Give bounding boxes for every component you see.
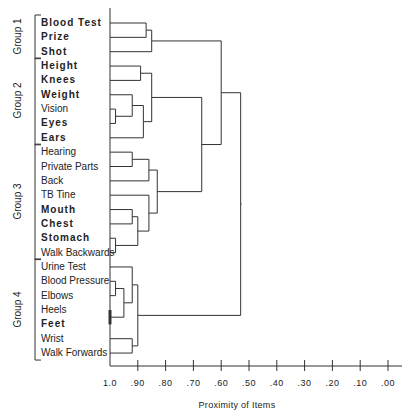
merge-link [141,73,152,121]
merge-link [110,95,132,117]
merge-link [132,285,138,346]
x-tick-label: .60 [214,378,228,388]
group-label: Group 4 [12,279,23,339]
x-tick-label: .00 [381,378,395,388]
merge-link [152,41,222,145]
merge-link [138,93,241,316]
x-tick-label: .40 [270,378,284,388]
leaf-label: Back [41,175,63,187]
leaf-label: Heels [41,304,67,316]
leaf-label: Knees [41,74,76,86]
merge-link [110,23,146,37]
x-tick-label: .30 [298,378,312,388]
leaf-label: Blood Test [41,17,102,29]
merge-link [110,210,132,224]
x-tick-label: .80 [159,378,173,388]
x-axis-title: Proximity of Items [0,400,414,410]
leaf-label: Walk Forwards [41,347,107,359]
merge-link [110,30,152,52]
leaf-label: Mouth [41,204,76,216]
merge-link [149,170,157,213]
leaf-label: Hearing [41,146,76,158]
x-tick-label: .90 [131,378,145,388]
leaf-label: Urine Test [41,261,86,273]
merge-link [110,281,116,295]
merge-link [110,109,116,123]
x-axis [110,360,402,371]
leaf-label: Weight [41,89,80,101]
leaf-label: Shot [41,46,67,58]
dendrogram-links [110,8,242,366]
leaf-label: Wrist [41,333,64,345]
leaf-label: Stomach [41,232,90,244]
leaf-label: Ears [41,132,67,144]
group-label: Group 2 [12,71,23,131]
merge-link [110,195,149,231]
x-tick-label: 1.0 [103,378,117,388]
merge-link [116,217,138,246]
leaf-label: Chest [41,218,74,230]
merge-link [110,339,132,353]
leaf-label: Height [41,60,78,72]
leaf-label: Blood Pressure [41,275,109,287]
x-tick-label: .10 [353,378,367,388]
merge-link [110,106,143,138]
leaf-label: Vision [41,103,68,115]
merge-link [110,159,149,181]
merge-link [110,288,124,317]
merge-link [110,66,141,80]
merge-link [152,97,202,191]
merge-link [110,267,132,303]
group-label: Group 1 [12,6,23,66]
leaf-label: Private Parts [41,161,98,173]
x-tick-label: .50 [242,378,256,388]
leaf-label: Eyes [41,117,68,129]
x-tick-label: .20 [325,378,339,388]
leaf-label: TB Tine [41,189,75,201]
leaf-label: Walk Backwards [41,247,115,259]
x-tick-label: .70 [186,378,200,388]
group-label: Group 3 [12,171,23,231]
leaf-label: Elbows [41,290,73,302]
leaf-label: Prize [41,31,70,43]
leaf-label: Feet [41,318,66,330]
merge-link [110,152,132,166]
